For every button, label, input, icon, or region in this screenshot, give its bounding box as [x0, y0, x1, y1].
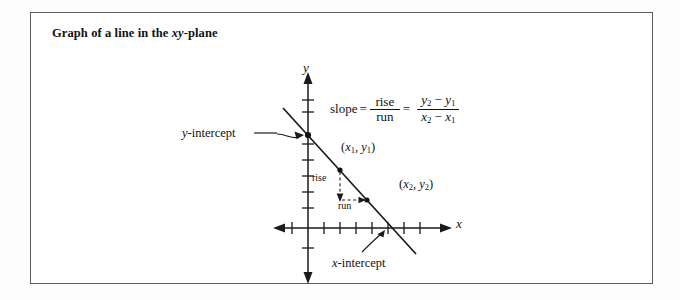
fraction-denominator-run: run	[374, 110, 395, 124]
slope-formula-equals-2: =	[403, 101, 410, 117]
y-axis-label: y	[303, 60, 309, 76]
rise-label: rise	[312, 172, 326, 183]
num-minus: −	[431, 92, 445, 107]
y-intercept-label: y-intercept	[182, 126, 235, 141]
slope-formula-lead: slope	[330, 101, 357, 117]
fraction-numerator-delta-y: y2 − y1	[417, 93, 459, 109]
figure-title: Graph of a line in the xy-plane	[52, 26, 218, 41]
den-x1-sub: 1	[451, 115, 455, 125]
page-root: Graph of a line in the xy-plane	[0, 0, 680, 300]
point2-close-paren: )	[429, 177, 433, 191]
slope-formula: slope = rise run = y2 − y1 x2 − x1	[330, 93, 460, 126]
delta-y-over-delta-x-fraction: y2 − y1 x2 − x1	[417, 93, 459, 126]
y-intercept-rest: -intercept	[188, 126, 236, 140]
run-label: run	[338, 200, 351, 211]
x-intercept-label: x-intercept	[332, 256, 385, 271]
point2-label: (x2, y2)	[399, 177, 433, 192]
x-axis-label: x	[456, 216, 462, 232]
x-intercept-rest: -intercept	[338, 256, 386, 270]
figure-title-prefix: Graph of a line in the	[52, 26, 172, 40]
figure-title-suffix: -plane	[184, 26, 218, 40]
slope-formula-equals-1: =	[359, 101, 366, 117]
rise-over-run-fraction: rise run	[370, 95, 400, 124]
fraction-numerator-rise: rise	[373, 95, 396, 109]
point1-label: (x1, y1)	[341, 140, 375, 155]
figure-title-italic: xy	[172, 26, 184, 40]
fraction-denominator-delta-x: x2 − x1	[417, 110, 459, 126]
point1-close-paren: )	[371, 140, 375, 154]
num-y1-sub: 1	[451, 98, 455, 108]
den-minus: −	[431, 109, 445, 124]
